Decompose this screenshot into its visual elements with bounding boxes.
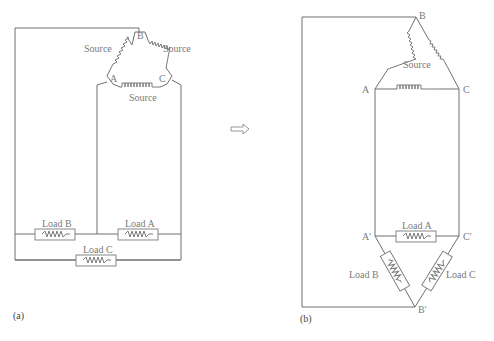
node-b-prime-label: B' <box>418 304 427 315</box>
source-coil-ab <box>111 37 132 68</box>
node-c-prime-label: C' <box>463 231 472 242</box>
wire-outer-b <box>302 17 416 307</box>
load-a-label-b: Load A <box>402 220 432 231</box>
load-a-label: Load A <box>125 218 155 229</box>
node-b-label-b: B <box>419 10 426 21</box>
equivalence-arrow-icon <box>231 124 249 134</box>
panel-a-caption: (a) <box>13 310 24 322</box>
source-coil-ac <box>120 83 160 87</box>
load-c-label: Load C <box>83 244 113 255</box>
load-c-label-b: Load C <box>446 269 476 280</box>
source-coil-bc-b <box>429 40 448 68</box>
panel-a: Source Source Source B A C Load B Load A… <box>13 28 191 322</box>
node-a-prime-label: A' <box>362 231 371 242</box>
wire-c-down <box>172 80 181 260</box>
load-b-label-b: Load B <box>349 269 379 280</box>
node-a-label: A <box>110 73 118 84</box>
load-a-resistor-b <box>396 231 436 242</box>
load-b-resistor <box>35 229 75 240</box>
load-b-label: Load B <box>42 218 72 229</box>
wire-b-a-lower <box>375 69 388 89</box>
source-ac-label: Source <box>129 92 157 103</box>
node-a-label-b: A <box>362 84 370 95</box>
wire-b-c-lower <box>448 68 459 89</box>
load-a-resistor <box>118 229 158 240</box>
panel-b: B A C Source A' C' B' Load A Load B Load… <box>300 10 476 325</box>
wire-b-a-upper <box>409 17 416 31</box>
node-c-label-b: C <box>463 84 470 95</box>
panel-b-caption: (b) <box>300 313 312 325</box>
source-coil-ac-b <box>397 85 439 89</box>
source-bc-label: Source <box>163 43 191 54</box>
circuit-diagram: Source Source Source B A C Load B Load A… <box>0 0 494 341</box>
wire-a-down <box>97 82 107 234</box>
source-ab-label: Source <box>84 43 112 54</box>
load-c-resistor <box>76 255 116 266</box>
node-b-label: B <box>137 30 144 41</box>
load-b-resistor-b <box>380 251 409 291</box>
node-c-label: C <box>159 73 166 84</box>
source-label-b: Source <box>403 59 431 70</box>
